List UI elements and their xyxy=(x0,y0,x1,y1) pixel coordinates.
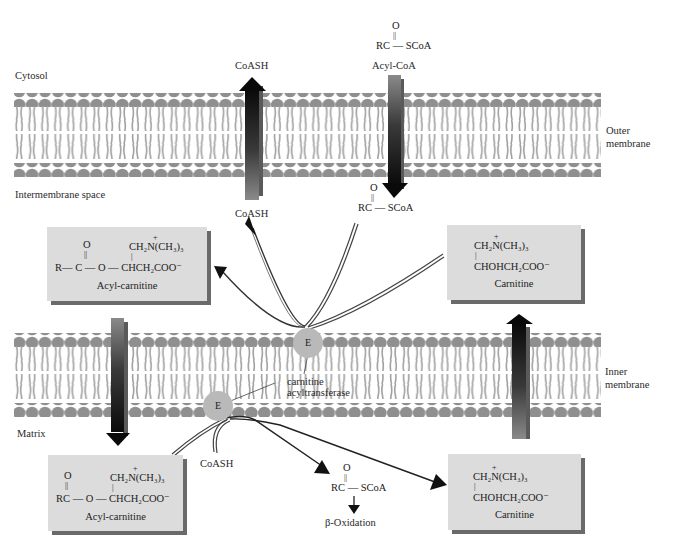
enzyme-inner: E xyxy=(203,391,233,421)
matrix-label: Matrix xyxy=(17,428,46,440)
carnitine-box-bottom: + CH₂N(CH₃)₃ | CHOHCH₂COO⁻ Carnitine xyxy=(448,454,581,530)
carnitine-box-top: + CH₂N(CH₃)₃ | CHOHCH₂COO⁻ Carnitine xyxy=(447,225,581,300)
acylcoa-matrix-formula: O || RC — SCoA xyxy=(331,462,386,494)
inner-membrane-label-line1: Inner xyxy=(605,365,649,378)
inner-reaction-curves xyxy=(172,416,435,482)
trimethylammonium-group: CH₂N(CH₃)₃ xyxy=(473,471,528,483)
trimethylammonium-group: CH₂N(CH₃)₃ xyxy=(110,472,165,484)
outer-membrane-label-line1: Outer xyxy=(606,124,650,137)
enzyme-name-line2: acyltransferase xyxy=(287,387,350,398)
outer-membrane-label: Outer membrane xyxy=(606,124,650,150)
acyl-ester-backbone: RC — O — CHCH₂COO⁻ xyxy=(56,493,170,505)
acylcoa-bottom-oxygen: O xyxy=(358,182,413,194)
acyl-carnitine-box-bottom: O || + CH₂N(CH₃)₃ | RC — O — CHCH₂COO⁻ A… xyxy=(48,455,183,531)
arrowhead-to-carnitine-matrix xyxy=(430,474,447,490)
coash-bottom-label: CoASH xyxy=(235,208,268,220)
trimethylammonium-group: CH₂N(CH₃)₃ xyxy=(474,240,529,252)
intermembrane-space-label: Intermembrane space xyxy=(15,189,105,201)
coash-top-label: CoASH xyxy=(235,60,268,72)
carnitine-caption: Carnitine xyxy=(448,509,581,520)
acyl-ester-backbone: R— C — O — CHCH₂COO⁻ xyxy=(55,262,182,274)
acylcoa-bottom-formula-text: RC — SCoA xyxy=(358,202,413,214)
double-bond: || xyxy=(65,480,68,492)
acylcoa-bottom-double-bond: || xyxy=(358,194,413,202)
inner-membrane-label-line2: membrane xyxy=(605,378,649,391)
acylcoa-bottom-formula: O || RC — SCoA xyxy=(358,182,413,214)
beta-oxidation-arrow xyxy=(348,496,360,514)
outer-membrane xyxy=(14,93,601,177)
inner-membrane-label: Inner membrane xyxy=(605,365,649,391)
trimethylammonium-group: CH₂N(CH₃)₃ xyxy=(129,241,184,253)
outer-reaction-curves xyxy=(222,223,444,329)
acylcoa-top-double-bond: || xyxy=(376,32,431,40)
acyl-carnitine-box-top: O || + CH₂N(CH₃)₃ | R— C — O — CHCH₂COO⁻… xyxy=(47,227,207,301)
enzyme-name-line1: carnitine xyxy=(287,376,350,387)
acylcoa-top-formula-text: RC — SCoA xyxy=(376,40,431,52)
enzyme-outer: E xyxy=(293,328,323,358)
coash-matrix-label: CoASH xyxy=(200,458,233,470)
outer-membrane-label-line2: membrane xyxy=(606,137,650,150)
acylcoa-label: Acyl-CoA xyxy=(372,60,416,72)
acyl-carnitine-caption: Acyl-carnitine xyxy=(47,280,207,291)
acylcoa-matrix-formula-text: RC — SCoA xyxy=(331,482,386,494)
acyl-carnitine-caption: Acyl-carnitine xyxy=(48,511,183,522)
double-bond: || xyxy=(84,249,87,261)
acylcoa-matrix-oxygen: O xyxy=(331,462,386,474)
arrowhead-to-acylcarnitine xyxy=(214,266,227,279)
acylcoa-matrix-double-bond: || xyxy=(331,474,386,482)
carnitine-backbone: CHOHCH₂COO⁻ xyxy=(473,492,549,504)
carnitine-backbone: CHOHCH₂COO⁻ xyxy=(474,261,550,273)
beta-oxidation-label: β-Oxidation xyxy=(325,517,376,529)
acylcoa-top-formula: O || RC — SCoA xyxy=(376,20,431,52)
acylcoa-top-oxygen: O xyxy=(376,20,431,32)
carnitine-caption: Carnitine xyxy=(447,278,581,289)
cytosol-label: Cytosol xyxy=(15,70,48,82)
enzyme-name-label: carnitine acyltransferase xyxy=(287,376,350,398)
